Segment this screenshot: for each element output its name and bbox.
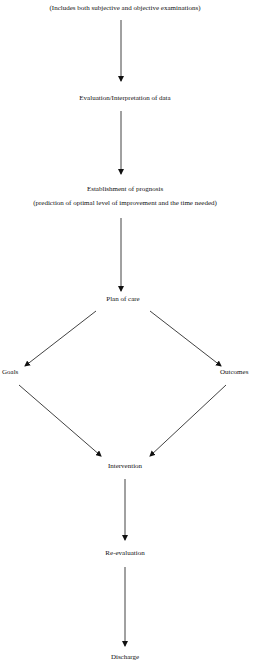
- node-goals: Goals: [2, 368, 18, 376]
- node-evaluation: Evaluation/Interpretation of data: [79, 94, 170, 102]
- node-outcomes: Outcomes: [220, 368, 248, 376]
- arrow-goals-to-intervention: [19, 385, 101, 456]
- node-prognosis-title: Establishment of prognosis: [87, 185, 163, 193]
- arrow-plan-to-goals: [25, 311, 96, 366]
- arrow-outcomes-to-intervention: [150, 385, 226, 456]
- node-intervention: Intervention: [108, 462, 142, 470]
- node-plan-of-care: Plan of care: [106, 295, 139, 303]
- arrow-plan-to-outcomes: [150, 311, 221, 366]
- node-discharge: Discharge: [111, 653, 139, 661]
- node-examination-note: (Includes both subjective and objective …: [49, 4, 200, 12]
- node-reevaluation: Re-evaluation: [105, 549, 144, 557]
- node-prognosis-note: (prediction of optimal level of improvem…: [33, 199, 217, 207]
